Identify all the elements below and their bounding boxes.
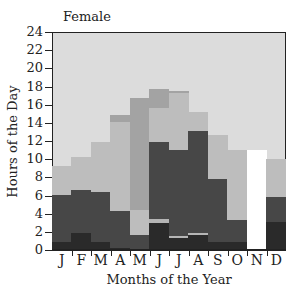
y-tick-label: 4	[3, 207, 43, 220]
bar-segment-medium_gray	[110, 115, 130, 122]
x-tick-label: O	[228, 252, 248, 268]
y-tick	[45, 105, 52, 106]
bar-segment-darkest	[188, 235, 208, 250]
bar-segment-light_mid	[149, 108, 169, 143]
y-tick	[45, 68, 52, 69]
x-tick-label: M	[130, 252, 150, 268]
x-tick-label: J	[150, 252, 170, 268]
x-tick-label: S	[208, 252, 228, 268]
y-tick-label: 2	[3, 225, 43, 238]
bar-segment-dark	[208, 179, 228, 243]
bar-segment-dark	[149, 142, 169, 218]
x-tick-label: M	[91, 252, 111, 268]
bar-segment-dark	[110, 211, 130, 247]
bar-segment-medium_gray	[130, 98, 150, 211]
x-tick-label: D	[267, 252, 287, 268]
bar-segment-thin_band	[169, 236, 189, 238]
bar-segment-darkest	[149, 223, 169, 249]
bar-segment-light_mid	[266, 159, 286, 197]
bar-segment-light_mid	[91, 142, 111, 192]
bar-segment-thin_band	[188, 233, 208, 235]
y-tick	[45, 232, 52, 233]
bar-segment-dark	[169, 150, 189, 236]
x-tick-label: J	[52, 252, 72, 268]
x-tick-label: F	[72, 252, 92, 268]
bar-segment-thin_band	[149, 219, 169, 224]
bar-segment-medium_gray	[169, 91, 189, 94]
y-tick	[45, 214, 52, 215]
y-tick	[45, 87, 52, 88]
x-tick-label: A	[111, 252, 131, 268]
y-tick	[45, 32, 52, 33]
bar-segment-missing	[247, 150, 267, 250]
x-tick-label: J	[169, 252, 189, 268]
bar-segment-light_mid	[52, 166, 72, 195]
bar-segment-darkest	[71, 233, 91, 249]
bar-segment-light_mid	[169, 93, 189, 149]
bar-segment-dark	[71, 190, 91, 233]
bar-segment-dark	[188, 131, 208, 233]
y-tick	[45, 141, 52, 142]
bar-segment-dark	[91, 192, 111, 242]
plot-area	[52, 32, 286, 250]
bar-segment-dark	[227, 220, 247, 243]
bar-segment-dark	[52, 195, 72, 242]
y-tick	[45, 123, 52, 124]
y-tick-label: 0	[3, 243, 43, 256]
x-axis-title: Months of the Year	[52, 272, 286, 287]
bar-segment-medium_gray	[149, 89, 169, 108]
y-axis-title: Hours of the Day	[5, 82, 20, 202]
bar-segment-darkest	[169, 238, 189, 250]
bar-segment-dark	[266, 197, 286, 222]
chart-title: Female	[63, 9, 111, 24]
bar-segment-darkest	[266, 222, 286, 249]
bar-segment-light_mid	[71, 157, 91, 191]
y-tick	[45, 196, 52, 197]
bar-segment-light_mid	[227, 150, 247, 220]
bar-segment-light_mid	[208, 135, 228, 179]
bar-segment-light_mid	[188, 112, 208, 131]
x-tick-label: N	[247, 252, 267, 268]
y-tick	[45, 250, 52, 251]
y-tick-label: 22	[3, 43, 43, 56]
bar-segment-dark	[130, 235, 150, 250]
y-tick-label: 20	[3, 61, 43, 74]
y-tick	[45, 177, 52, 178]
bar-segment-light_mid	[110, 122, 130, 211]
y-tick-label: 24	[3, 25, 43, 38]
x-tick-label: A	[189, 252, 209, 268]
bar-segment-light_mid	[130, 210, 150, 235]
y-tick	[45, 50, 52, 51]
y-tick	[45, 159, 52, 160]
